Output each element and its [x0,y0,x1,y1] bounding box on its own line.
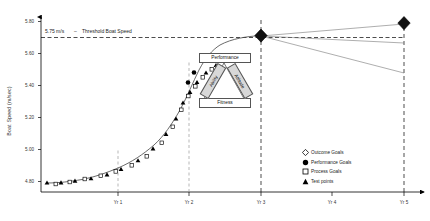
chart-container: Boat Speed (m/sec) 5.80 5.60 5.40 5.20 5… [0,0,430,221]
legend-item-outcome-goals: Outcome Goals [300,148,351,158]
series-process-goals [54,68,214,186]
legend-label: Performance Goals [311,160,351,165]
legend-item-process-goals: Process Goals [300,167,351,177]
legend-label: Outcome Goals [311,150,344,155]
legend-item-test-points: Test points [300,177,351,187]
y-axis-ticks [38,22,41,182]
series-outcome-goals [255,17,410,43]
outcome-goal-yr5 [398,17,410,30]
vertical-guides [118,60,189,192]
chart-legend: Outcome Goals Performance Goals Process … [300,148,351,186]
open-diamond-icon [300,149,311,156]
pyramid-base-label: Fitness [199,98,251,109]
x-axis-ticks [118,192,404,196]
legend-label: Test points [311,179,333,184]
plot-area [0,0,430,221]
filled-triangle-icon [300,178,311,185]
legend-item-performance-goals: Performance Goals [300,158,351,168]
filled-circle-icon [300,159,311,166]
outcome-goal-yr3 [255,29,267,42]
pyramid-top-label: Performance [199,53,251,64]
legend-label: Process Goals [311,169,341,174]
open-square-icon [300,168,311,175]
projection-lines [261,24,404,73]
